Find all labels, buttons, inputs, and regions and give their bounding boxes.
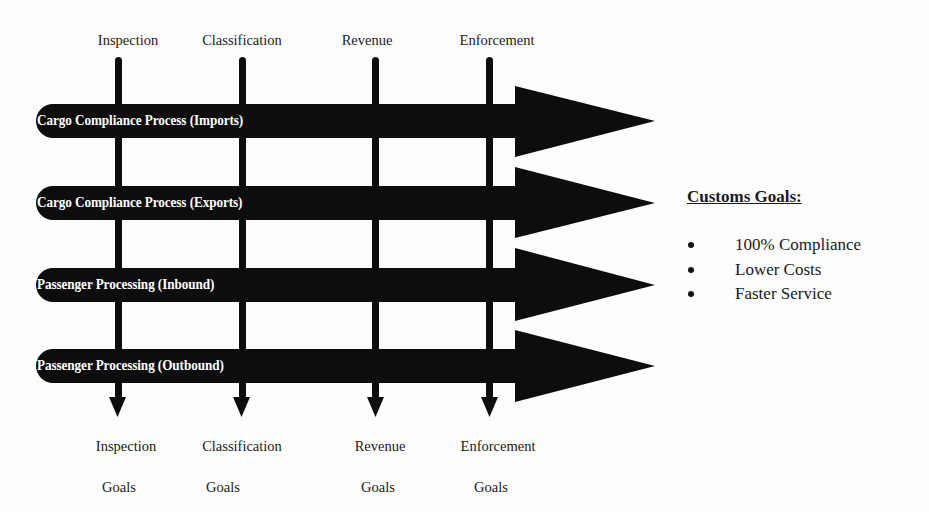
top-label-inspection: Inspection: [98, 33, 158, 48]
bottom-label-classification-goals: Goals: [206, 480, 240, 495]
bottom-label-classification: Classification: [202, 439, 282, 454]
bottom-label-revenue: Revenue: [355, 439, 406, 454]
top-label-enforcement: Enforcement: [460, 33, 535, 48]
bottom-label-revenue-goals: Goals: [361, 480, 395, 495]
top-label-revenue: Revenue: [342, 33, 393, 48]
bullet-icon: [688, 291, 694, 297]
customs-goals-list: 100% Compliance Lower Costs Faster Servi…: [687, 233, 917, 307]
customs-goal-text: Faster Service: [735, 284, 832, 303]
bottom-label-enforcement-goals: Goals: [474, 480, 508, 495]
process-label-imports: Cargo Compliance Process (Imports): [37, 113, 243, 128]
customs-goals-title: Customs Goals:: [687, 188, 917, 205]
process-arrows: [36, 86, 655, 402]
bottom-label-inspection-goals: Goals: [102, 480, 136, 495]
bottom-label-inspection: Inspection: [96, 439, 156, 454]
customs-goal-item: Lower Costs: [687, 258, 917, 283]
customs-goal-text: Lower Costs: [735, 260, 821, 279]
customs-goal-item: 100% Compliance: [687, 233, 917, 258]
bullet-icon: [688, 242, 694, 248]
customs-goals-panel: Customs Goals: 100% Compliance Lower Cos…: [687, 188, 917, 307]
bottom-label-enforcement: Enforcement: [461, 439, 536, 454]
customs-goal-text: 100% Compliance: [735, 235, 861, 254]
bullet-icon: [688, 267, 694, 273]
process-label-exports: Cargo Compliance Process (Exports): [37, 195, 242, 210]
process-label-inbound: Passenger Processing (Inbound): [37, 277, 214, 292]
top-label-classification: Classification: [202, 33, 282, 48]
customs-goal-item: Faster Service: [687, 282, 917, 307]
process-label-outbound: Passenger Processing (Outbound): [37, 358, 224, 373]
